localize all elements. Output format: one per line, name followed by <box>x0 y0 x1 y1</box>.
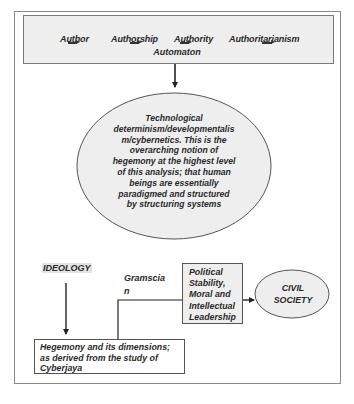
gramscian-label: Gramscia n <box>124 272 164 298</box>
political-leadership-box: Political Stability, Moral and Intellect… <box>182 263 243 324</box>
political-line: Moral and <box>189 289 242 300</box>
hegemony-notion-text: Technological determinism/developmentali… <box>86 113 262 210</box>
political-line: Political <box>189 267 242 278</box>
civil-line: SOCIETY <box>256 295 330 307</box>
gramscian-line: Gramscia <box>124 272 164 285</box>
ellipse-line: Technological <box>86 113 262 124</box>
ellipse-line: beings are essentially <box>86 178 262 189</box>
ellipse-line: of this analysis; that human <box>86 167 262 178</box>
ellipse-line: overarching notion of <box>86 145 262 156</box>
political-line: Stability, <box>189 278 242 289</box>
ellipse-line: by structuring systems <box>86 199 262 210</box>
ellipse-line: determinism/developmentalis <box>86 124 262 135</box>
civil-society-label: CIVIL SOCIETY <box>256 283 330 306</box>
gramscian-line: n <box>124 285 164 298</box>
ideology-label: IDEOLOGY <box>42 263 92 273</box>
civil-line: CIVIL <box>256 283 330 295</box>
hegemony-line: Hegemony and its dimensions; <box>40 342 184 353</box>
hegemony-line: as derived from the study of <box>40 353 184 364</box>
ellipse-line: hegemony at the highest level <box>86 156 262 167</box>
ellipse-line: paradigmed and structured <box>86 189 262 200</box>
ellipse-line: m/cybernetics. This is the <box>86 135 262 146</box>
political-line: Leadership <box>189 312 242 323</box>
hegemony-dimensions-box: Hegemony and its dimensions; as derived … <box>34 339 185 374</box>
hegemony-line: Cyberjaya <box>40 363 184 374</box>
political-line: Intellectual <box>189 301 242 312</box>
gramscian-connector <box>118 300 182 339</box>
